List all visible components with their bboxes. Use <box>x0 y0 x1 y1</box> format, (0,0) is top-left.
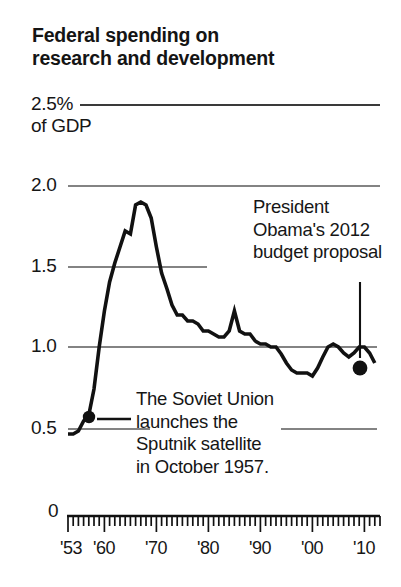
sputnik-marker-group <box>83 411 131 423</box>
sputnik-point-marker <box>83 411 95 423</box>
x-tick-label-90: '90 <box>246 538 274 558</box>
sputnik-annotation-line-1: The Soviet Union <box>136 388 274 411</box>
x-tick-label-70: '70 <box>142 538 170 558</box>
obama-marker-group <box>353 282 368 375</box>
sputnik-annotation: The Soviet Union launches the Sputnik sa… <box>136 388 274 478</box>
y-tick-label-2.5: 2.5% <box>31 93 73 114</box>
obama-annotation-line-1: President <box>253 196 382 219</box>
sputnik-annotation-line-2: launches the <box>136 411 274 434</box>
x-tick-label-80: '80 <box>194 538 222 558</box>
y-tick-label-0.5: 0.5 <box>31 417 57 438</box>
plot-area <box>0 0 401 587</box>
sputnik-annotation-line-4: in October 1957. <box>136 456 274 479</box>
x-tick-label-53: '53 <box>58 538 84 558</box>
y-tick-label-2.0: 2.0 <box>31 174 57 195</box>
chart-figure: Federal spending on research and develop… <box>0 0 401 587</box>
y-tick-label-0: 0 <box>48 500 58 521</box>
obama-annotation-line-2: Obama's 2012 <box>253 219 382 242</box>
sputnik-annotation-line-3: Sputnik satellite <box>136 433 274 456</box>
x-axis-ticks <box>68 516 380 532</box>
y-axis-unit-label: of GDP <box>31 115 92 136</box>
obama-annotation-line-3: budget proposal <box>253 241 382 264</box>
x-tick-label-00: '00 <box>298 538 326 558</box>
x-tick-label-60: '60 <box>90 538 118 558</box>
x-tick-label-10: '10 <box>350 538 378 558</box>
obama-point-marker <box>353 361 368 376</box>
obama-annotation: President Obama's 2012 budget proposal <box>253 196 382 264</box>
y-tick-label-1.0: 1.0 <box>31 335 57 356</box>
y-tick-label-1.5: 1.5 <box>31 255 57 276</box>
